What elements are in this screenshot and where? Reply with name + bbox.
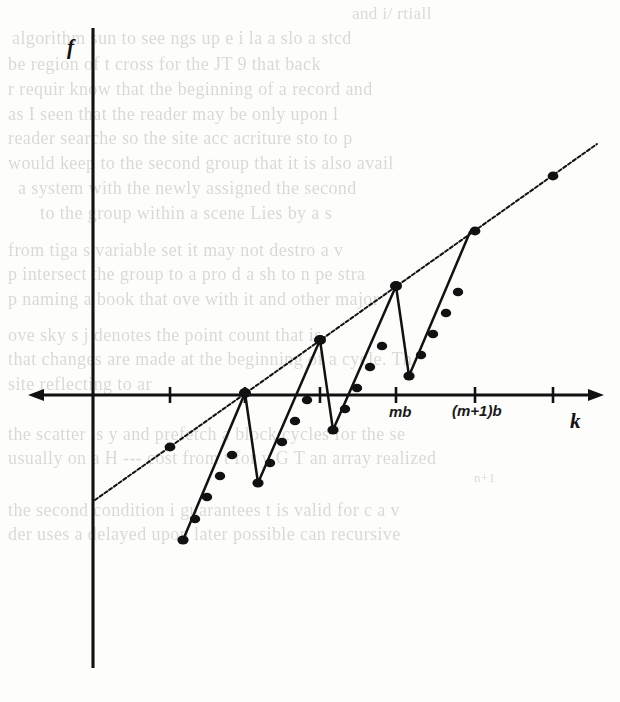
sawtooth-ramp-point <box>277 438 287 447</box>
upper-envelope-line <box>95 144 597 500</box>
sawtooth-ramp-point <box>265 459 275 468</box>
sawtooth-ramp-point <box>377 342 387 351</box>
tick-label-mb: mb <box>389 403 412 420</box>
envelope-data-point <box>548 172 559 181</box>
sawtooth-ramp-point <box>428 330 438 339</box>
figure-container: f k mb (m+1)b <box>0 0 620 702</box>
sawtooth-valley-point <box>403 371 414 380</box>
k-axis <box>28 387 604 403</box>
sawtooth-ramp-dots <box>190 288 463 524</box>
sawtooth-valley-point <box>327 425 338 434</box>
sawtooth-ramp-point <box>416 351 426 360</box>
sawtooth-valley-point <box>177 535 188 544</box>
sawtooth-peak-point <box>314 335 326 345</box>
k-axis-label: k <box>570 409 581 434</box>
k-axis-right-arrowhead <box>588 389 604 401</box>
sawtooth-ramp-point <box>453 288 463 297</box>
sawtooth-ramp-point <box>202 493 212 502</box>
sawtooth-vertex-dots <box>177 281 414 545</box>
sawtooth-polyline <box>183 232 470 540</box>
sawtooth-ramp-point <box>340 405 350 414</box>
sawtooth-ramp-point <box>190 515 200 524</box>
f-axis-label: f <box>67 35 74 60</box>
sawtooth-ramp-point <box>365 363 375 372</box>
sawtooth-ramp-point <box>227 451 237 460</box>
sawtooth-peak-point <box>390 281 402 291</box>
sawtooth-ramp-point <box>290 417 300 426</box>
sawtooth-ramp-point <box>441 309 451 318</box>
k-axis-left-arrowhead <box>28 389 44 401</box>
tick-label-m-plus-1-b: (m+1)b <box>452 402 502 419</box>
sawtooth-ramp-point <box>302 396 312 405</box>
sawtooth-ramp-point <box>215 472 225 481</box>
sawtooth-peak-point <box>239 388 251 398</box>
sawtooth-path <box>177 232 470 545</box>
envelope-data-point <box>470 227 481 236</box>
sawtooth-ramp-point <box>352 384 362 393</box>
envelope-data-point <box>165 443 176 452</box>
plot-svg <box>0 0 620 702</box>
sawtooth-valley-point <box>252 478 263 487</box>
